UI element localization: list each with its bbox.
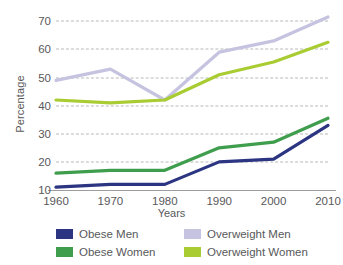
- x-tick-label: 1980: [152, 195, 178, 207]
- y-tick-label: 60: [38, 43, 51, 55]
- x-tick-label: 1960: [43, 195, 69, 207]
- legend-label: Obese Men: [79, 228, 138, 240]
- y-tick-label: 70: [38, 15, 51, 27]
- legend-swatch: [56, 247, 73, 257]
- x-axis-title: Years: [0, 207, 343, 219]
- chart-legend: Obese MenOverweight MenObese WomenOverwe…: [56, 226, 336, 259]
- legend-swatch: [184, 247, 201, 257]
- x-tick-label: 1990: [206, 195, 232, 207]
- legend-item: Obese Men: [56, 226, 184, 241]
- x-axis-line: [48, 190, 336, 191]
- legend-item: Overweight Women: [184, 244, 336, 259]
- legend-item: Obese Women: [56, 244, 184, 259]
- x-tick-label: 2010: [315, 195, 341, 207]
- y-axis-title: Percentage: [14, 58, 26, 150]
- y-tick-label: 30: [38, 128, 51, 140]
- x-tick-label: 1970: [98, 195, 124, 207]
- line-chart: Percentage 10203040506070 19601970198019…: [0, 0, 343, 265]
- legend-label: Overweight Men: [207, 228, 291, 240]
- legend-label: Obese Women: [79, 246, 156, 258]
- plot-area: 10203040506070 196019701980199020002010: [56, 10, 328, 190]
- legend-swatch: [184, 229, 201, 239]
- x-tick-label: 2000: [261, 195, 287, 207]
- series-line: [56, 118, 328, 173]
- legend-swatch: [56, 229, 73, 239]
- y-tick-label: 50: [38, 72, 51, 84]
- y-tick-label: 20: [38, 156, 51, 168]
- legend-label: Overweight Women: [207, 246, 308, 258]
- legend-item: Overweight Men: [184, 226, 336, 241]
- y-tick-label: 40: [38, 100, 51, 112]
- series-layer: [56, 10, 328, 190]
